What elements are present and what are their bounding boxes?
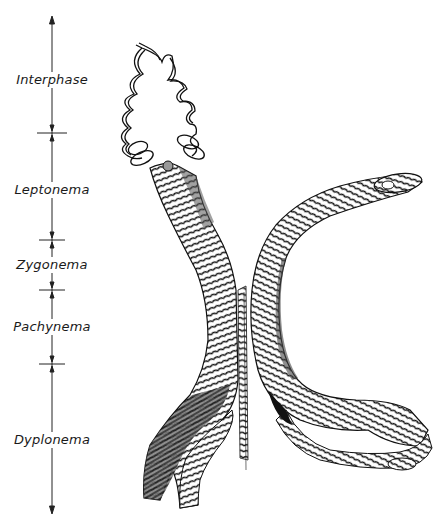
axial-strand [238, 286, 248, 460]
right-tip-loop [388, 458, 416, 470]
boundary-tick-3 [39, 282, 65, 298]
right-top-tip [373, 171, 423, 196]
stage-label-interphase: Interphase [0, 72, 104, 88]
stage-label-pachynema: Pachynema [0, 319, 104, 335]
stage-label-zygonema: Zygonema [0, 257, 104, 273]
stage-label-leptonema: Leptonema [0, 182, 104, 198]
boundary-tick-4 [39, 356, 65, 372]
centromere-knob [163, 161, 173, 171]
diagram-stage: Interphase Leptonema Zygonema Pachynema … [0, 0, 438, 526]
stage-label-dyplonema: Dyplonema [0, 432, 104, 448]
boundary-tick-1 [37, 125, 67, 141]
boundary-tick-2 [39, 232, 65, 248]
interphase-loops [121, 43, 206, 169]
